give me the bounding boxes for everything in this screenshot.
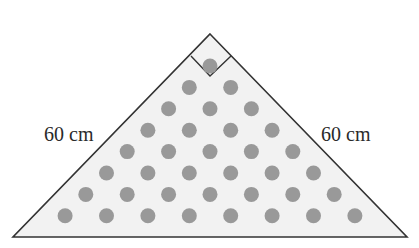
dot xyxy=(161,101,176,116)
right-side-length-label: 60 cm xyxy=(321,124,370,144)
dot xyxy=(161,187,176,202)
dot xyxy=(182,208,197,223)
dot xyxy=(203,144,218,159)
dot xyxy=(347,208,362,223)
dot xyxy=(120,187,135,202)
dot xyxy=(244,101,259,116)
dot xyxy=(223,80,238,95)
dot xyxy=(182,166,197,181)
left-side-length-label: 60 cm xyxy=(44,124,93,144)
dot xyxy=(120,144,135,159)
dot xyxy=(265,166,280,181)
dot xyxy=(140,208,155,223)
dot xyxy=(182,80,197,95)
dot xyxy=(161,144,176,159)
dot xyxy=(58,208,73,223)
dot xyxy=(327,187,342,202)
dot xyxy=(223,208,238,223)
dot xyxy=(265,123,280,138)
dot xyxy=(140,123,155,138)
dot xyxy=(223,123,238,138)
dot xyxy=(306,166,321,181)
dot xyxy=(203,101,218,116)
dot xyxy=(140,166,155,181)
dot xyxy=(244,144,259,159)
dot xyxy=(306,208,321,223)
dot xyxy=(285,187,300,202)
dot xyxy=(203,187,218,202)
dot xyxy=(78,187,93,202)
dot xyxy=(265,208,280,223)
dot xyxy=(182,123,197,138)
dot xyxy=(99,166,114,181)
dot xyxy=(223,166,238,181)
dot xyxy=(203,59,218,74)
dot xyxy=(99,208,114,223)
dot xyxy=(285,144,300,159)
dot xyxy=(244,187,259,202)
